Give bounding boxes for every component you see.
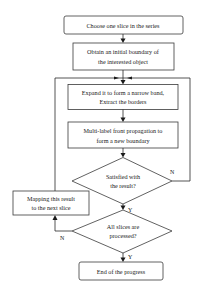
node-propagate	[68, 122, 178, 148]
svg-text:Extract the borders: Extract the borders	[99, 98, 147, 105]
svg-text:the result?: the result?	[110, 182, 136, 189]
arrowhead-icon	[121, 118, 126, 123]
node-mapping-line1: Mapping this result	[27, 195, 75, 202]
svg-text:Expand it to form a narrow ban: Expand it to form a narrow band,	[82, 89, 165, 96]
node-satisfied-line1: Satisfied with	[106, 173, 141, 180]
node-satisfied-line2: the result?	[110, 182, 136, 189]
arrowhead-icon	[53, 215, 58, 220]
node-obtain-line1: Obtain an initial boundary of	[87, 48, 160, 55]
arrowhead-icon	[121, 258, 126, 263]
label-all-yes: Y	[128, 254, 133, 260]
node-all-processed-line1: All slices are	[107, 223, 140, 230]
arrow-all-mapping	[55, 218, 72, 231]
svg-text:Choose one slice in the series: Choose one slice in the series	[86, 22, 160, 29]
svg-text:to the next slice: to the next slice	[31, 204, 70, 211]
node-choose-text: Choose one slice in the series	[86, 22, 160, 29]
svg-text:Satisfied with: Satisfied with	[106, 173, 141, 180]
arrowhead-icon	[127, 77, 132, 80]
arrowhead-icon	[121, 153, 126, 158]
svg-text:Mapping this result: Mapping this result	[27, 195, 75, 202]
flowchart: Choose one slice in the series Obtain an…	[0, 0, 201, 293]
node-expand-line2: Extract the borders	[99, 98, 147, 105]
arrowhead-icon	[114, 77, 119, 80]
node-propagate-line1: Multi-label front propagation to	[84, 127, 163, 134]
node-propagate-line2: form a new boundary	[96, 137, 150, 144]
svg-text:End of the progress: End of the progress	[97, 268, 146, 275]
svg-text:All slices are: All slices are	[107, 223, 140, 230]
label-all-no: N	[60, 235, 65, 241]
node-end-text: End of the progress	[97, 268, 146, 275]
svg-text:form a new boundary: form a new boundary	[96, 137, 150, 144]
node-all-processed-line2: processed?	[109, 232, 136, 239]
node-mapping-line2: to the next slice	[31, 204, 70, 211]
node-obtain-line2: the interested object	[98, 58, 148, 65]
svg-text:the interested object: the interested object	[98, 58, 148, 65]
arrowhead-icon	[121, 80, 126, 85]
arrowhead-icon	[121, 206, 126, 211]
node-expand-line1: Expand it to form a narrow band,	[82, 89, 165, 96]
svg-text:Multi-label front propagation: Multi-label front propagation to	[84, 127, 163, 134]
label-satisfied-no: N	[170, 169, 175, 175]
arrowhead-icon	[121, 39, 126, 44]
svg-text:processed?: processed?	[109, 232, 136, 239]
svg-text:Obtain an initial boundary of: Obtain an initial boundary of	[87, 48, 160, 55]
